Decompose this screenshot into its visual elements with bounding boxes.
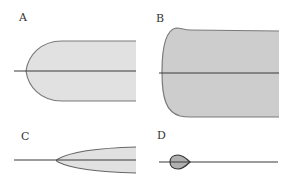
panel-a-shape [14, 41, 136, 101]
diagram-canvas [0, 0, 298, 183]
panel-d-shape [159, 155, 278, 169]
panel-c-shape [14, 147, 136, 173]
panel-b-shape [159, 28, 279, 117]
